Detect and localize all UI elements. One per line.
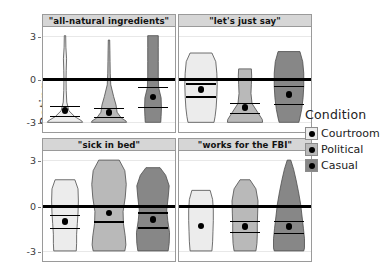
legend-swatch-icon <box>305 127 318 140</box>
legend-item-label: Casual <box>321 159 358 172</box>
y-axis-tick-mark <box>38 161 41 162</box>
facet-panel: "let's just say" <box>178 14 312 133</box>
legend-point-icon <box>309 163 315 169</box>
confidence-interval-bar <box>138 87 169 88</box>
plot-area <box>178 27 312 133</box>
confidence-interval-bar <box>186 96 217 97</box>
confidence-interval-bar <box>230 221 261 222</box>
confidence-interval-bar <box>138 107 169 108</box>
confidence-interval-bar <box>274 86 305 87</box>
confidence-interval-bar <box>94 205 125 206</box>
y-axis-tick-label: 0 <box>20 74 36 85</box>
legend-point-icon <box>309 147 315 153</box>
plot-area <box>42 27 176 133</box>
legend: Condition CourtroomPoliticalCasual <box>305 107 380 174</box>
y-axis-tick-label: 3 <box>20 155 36 166</box>
confidence-interval-bar <box>50 116 81 117</box>
legend-swatch-icon <box>305 159 318 172</box>
facet-panel: "all-natural ingredients" <box>42 14 176 133</box>
y-axis-tick-mark <box>38 123 41 124</box>
legend-item[interactable]: Casual <box>305 158 380 173</box>
facet-title: "all-natural ingredients" <box>42 14 176 27</box>
confidence-interval-bar <box>230 232 261 233</box>
legend-swatch-icon <box>305 143 318 156</box>
zero-reference-line <box>178 205 312 208</box>
violin-chart-figure: Rating 30-330-3 "all-natural ingredients… <box>0 0 383 276</box>
facet-panel: "works for the FBI" <box>178 138 312 262</box>
confidence-interval-bar <box>50 228 81 229</box>
mean-point <box>62 218 69 225</box>
y-axis-tick-label: 0 <box>20 201 36 212</box>
confidence-interval-bar <box>138 227 169 228</box>
y-axis-tick-label: -3 <box>20 246 36 257</box>
facet-title: "let's just say" <box>178 14 312 27</box>
y-axis-tick-label: 3 <box>20 31 36 42</box>
y-axis-tick-mark <box>38 252 41 253</box>
mean-point <box>106 109 113 116</box>
confidence-interval-bar <box>274 233 305 234</box>
confidence-interval-bar <box>230 113 261 114</box>
confidence-interval-bar <box>94 117 125 118</box>
confidence-interval-bar <box>50 215 81 216</box>
y-axis-tick-mark <box>38 80 41 81</box>
legend-point-icon <box>309 131 315 137</box>
confidence-interval-bar <box>274 104 305 105</box>
legend-item[interactable]: Courtroom <box>305 126 380 141</box>
y-axis-tick-mark <box>38 37 41 38</box>
zero-reference-line <box>42 78 176 81</box>
legend-title: Condition <box>305 107 380 122</box>
legend-items: CourtroomPoliticalCasual <box>305 126 380 173</box>
facet-title: "sick in bed" <box>42 138 176 151</box>
zero-reference-line <box>178 78 312 81</box>
legend-item[interactable]: Political <box>305 142 380 157</box>
legend-item-label: Courtroom <box>321 127 380 140</box>
facet-title: "works for the FBI" <box>178 138 312 151</box>
legend-item-label: Political <box>321 143 363 156</box>
confidence-interval-bar <box>274 221 305 222</box>
y-axis-tick-mark <box>38 207 41 208</box>
y-axis-tick-label: -3 <box>20 117 36 128</box>
facet-panel: "sick in bed" <box>42 138 176 262</box>
confidence-interval-bar <box>94 221 125 222</box>
confidence-interval-bar <box>186 83 217 84</box>
plot-area <box>42 151 176 262</box>
plot-area <box>178 151 312 262</box>
confidence-interval-bar <box>138 212 169 213</box>
